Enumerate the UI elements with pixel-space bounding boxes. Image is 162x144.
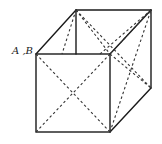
bottom-right-edge xyxy=(110,88,151,132)
top-left-edge xyxy=(36,10,76,54)
cube-figure xyxy=(0,0,162,144)
vertex-label-ab: A ,B xyxy=(12,45,33,56)
right-diagonal-1 xyxy=(110,54,151,88)
top-inner-dashed xyxy=(62,10,76,54)
top-diagonal-1 xyxy=(76,10,110,54)
